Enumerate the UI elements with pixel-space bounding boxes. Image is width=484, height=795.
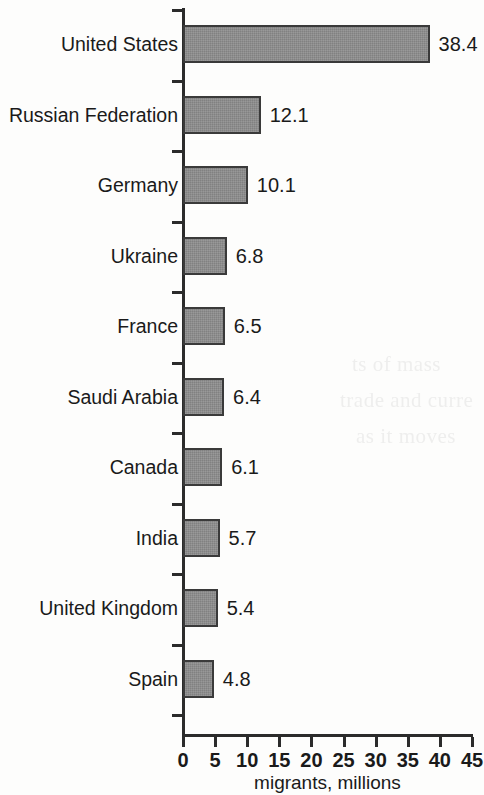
category-tick <box>172 503 183 506</box>
bar-row: Canada6.1 <box>0 448 484 486</box>
bar-row: United Kingdom5.4 <box>0 589 484 627</box>
category-label: France <box>117 307 178 345</box>
value-tick <box>278 737 281 747</box>
category-tick <box>172 80 183 83</box>
bar-row: United States38.4 <box>0 25 484 63</box>
bar <box>183 237 227 275</box>
category-label: United States <box>61 25 178 63</box>
value-tick <box>375 737 378 747</box>
value-tick <box>246 737 249 747</box>
category-label: Spain <box>128 660 178 698</box>
value-tick-label: 10 <box>236 749 258 772</box>
value-tick-label: 5 <box>210 749 221 772</box>
category-label: Germany <box>98 166 178 204</box>
category-tick <box>172 150 183 153</box>
bar-value-label: 6.5 <box>225 307 262 345</box>
bar <box>183 660 214 698</box>
bar <box>183 307 225 345</box>
bar-row: Saudi Arabia6.4 <box>0 378 484 416</box>
bar <box>183 96 261 134</box>
value-tick <box>343 737 346 747</box>
bar-row: Germany10.1 <box>0 166 484 204</box>
value-tick <box>310 737 313 747</box>
bar-value-label: 12.1 <box>261 96 309 134</box>
bar-row: Russian Federation12.1 <box>0 96 484 134</box>
value-axis-line <box>182 734 473 737</box>
category-label: Saudi Arabia <box>67 378 178 416</box>
category-tick <box>172 291 183 294</box>
bar-row: Ukraine6.8 <box>0 237 484 275</box>
value-tick <box>471 737 474 747</box>
value-tick-label: 15 <box>268 749 290 772</box>
value-tick-label: 35 <box>397 749 419 772</box>
category-tick <box>172 644 183 647</box>
bar-value-label: 10.1 <box>248 166 296 204</box>
bar <box>183 448 222 486</box>
value-tick <box>182 737 185 747</box>
bar <box>183 166 248 204</box>
bar-value-label: 5.4 <box>218 589 255 627</box>
value-tick-label: 0 <box>177 749 188 772</box>
value-tick-label: 25 <box>332 749 354 772</box>
value-tick-label: 40 <box>429 749 451 772</box>
value-tick-label: 45 <box>461 749 483 772</box>
bar-value-label: 5.7 <box>220 519 257 557</box>
value-tick-label: 30 <box>365 749 387 772</box>
bar-row: Spain4.8 <box>0 660 484 698</box>
category-tick <box>172 9 183 12</box>
bar-value-label: 6.8 <box>227 237 264 275</box>
x-axis-title: migrants, millions <box>182 772 473 794</box>
category-tick <box>172 362 183 365</box>
bar-row: France6.5 <box>0 307 484 345</box>
bar <box>183 589 218 627</box>
value-tick <box>214 737 217 747</box>
bar <box>183 519 220 557</box>
category-tick <box>172 432 183 435</box>
category-label: India <box>136 519 178 557</box>
category-label: United Kingdom <box>39 589 178 627</box>
bar-value-label: 6.4 <box>224 378 261 416</box>
category-label: Russian Federation <box>9 96 178 134</box>
bar <box>183 25 430 63</box>
bar-row: India5.7 <box>0 519 484 557</box>
value-tick <box>407 737 410 747</box>
bar-value-label: 4.8 <box>214 660 251 698</box>
value-tick-label: 20 <box>300 749 322 772</box>
value-tick <box>439 737 442 747</box>
horizontal-bar-chart: United States38.4Russian Federation12.1G… <box>0 0 484 795</box>
category-tick <box>172 714 183 717</box>
category-tick <box>172 573 183 576</box>
category-label: Ukraine <box>111 237 178 275</box>
category-label: Canada <box>110 448 178 486</box>
bar-value-label: 6.1 <box>222 448 259 486</box>
bar <box>183 378 224 416</box>
category-tick <box>172 221 183 224</box>
bar-value-label: 38.4 <box>430 25 478 63</box>
